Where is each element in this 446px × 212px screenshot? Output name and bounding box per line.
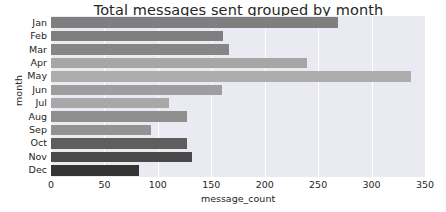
y-tick-apr: Apr <box>0 57 47 68</box>
y-tick-aug: Aug <box>0 111 47 122</box>
bar-feb[interactable] <box>51 31 223 41</box>
bar-jun[interactable] <box>51 85 222 95</box>
bar-row <box>51 125 425 135</box>
bar-sep[interactable] <box>51 125 151 135</box>
x-tick-300: 300 <box>352 179 392 190</box>
y-tick-jul: Jul <box>0 97 47 108</box>
y-tick-jan: Jan <box>0 17 47 28</box>
x-tick-0: 0 <box>31 179 71 190</box>
y-tick-oct: Oct <box>0 137 47 148</box>
bar-row <box>51 44 425 54</box>
bar-mar[interactable] <box>51 44 229 54</box>
y-tick-may: May <box>0 70 47 81</box>
bar-row <box>51 165 425 175</box>
y-tick-sep: Sep <box>0 124 47 135</box>
bar-row <box>51 111 425 121</box>
y-tick-feb: Feb <box>0 30 47 41</box>
bar-row <box>51 152 425 162</box>
bar-row <box>51 85 425 95</box>
x-tick-100: 100 <box>138 179 178 190</box>
bar-oct[interactable] <box>51 138 187 148</box>
bar-row <box>51 17 425 27</box>
bar-row <box>51 71 425 81</box>
y-tick-jun: Jun <box>0 84 47 95</box>
bar-row <box>51 31 425 41</box>
x-tick-350: 350 <box>405 179 445 190</box>
bar-may[interactable] <box>51 71 411 81</box>
bar-row <box>51 58 425 68</box>
x-tick-50: 50 <box>84 179 124 190</box>
x-tick-150: 150 <box>191 179 231 190</box>
y-tick-nov: Nov <box>0 151 47 162</box>
bar-nov[interactable] <box>51 152 192 162</box>
bar-jan[interactable] <box>51 17 338 27</box>
y-tick-dec: Dec <box>0 164 47 175</box>
bar-apr[interactable] <box>51 58 307 68</box>
bar-dec[interactable] <box>51 165 139 175</box>
plot-area <box>51 16 425 177</box>
x-tick-250: 250 <box>298 179 338 190</box>
y-tick-mar: Mar <box>0 44 47 55</box>
bar-jul[interactable] <box>51 98 169 108</box>
bar-aug[interactable] <box>51 111 187 121</box>
x-tick-200: 200 <box>245 179 285 190</box>
x-axis-label: message_count <box>51 193 425 204</box>
bar-row <box>51 98 425 108</box>
bar-row <box>51 138 425 148</box>
chart-figure: Total messages sent grouped by month mon… <box>0 0 446 212</box>
